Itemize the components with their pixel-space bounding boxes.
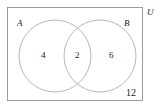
venn-diagram: A B U 4 2 6 12: [0, 0, 160, 108]
region-count-intersection: 2: [75, 51, 80, 60]
region-count-outside: 12: [126, 88, 136, 98]
region-count-a-only: 4: [41, 51, 46, 60]
set-a-circle: [19, 20, 91, 92]
venn-shapes: [0, 0, 160, 108]
set-b-label: B: [124, 19, 130, 28]
region-count-b-only: 6: [109, 51, 114, 60]
set-a-label: A: [17, 19, 23, 28]
universal-set-label: U: [147, 8, 154, 17]
